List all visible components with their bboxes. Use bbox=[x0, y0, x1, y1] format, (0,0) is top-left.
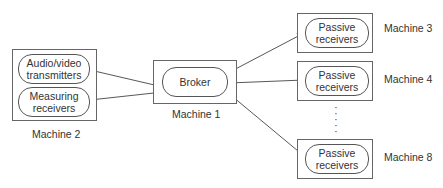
passive-receivers-node-4: Passivereceivers bbox=[305, 66, 369, 96]
node-label: transmitters bbox=[27, 69, 82, 81]
node-label: Measuring bbox=[29, 90, 78, 102]
machine-1-label: Machine 1 bbox=[172, 108, 220, 120]
node-label: Broker bbox=[180, 76, 211, 88]
broker-node: Broker bbox=[162, 67, 228, 97]
machine-2-label: Machine 2 bbox=[32, 128, 80, 140]
machine-1-box: Broker bbox=[153, 60, 237, 104]
machine-4-label: Machine 4 bbox=[384, 73, 432, 85]
ellipsis-dots: ····· bbox=[333, 105, 339, 135]
audio-video-transmitters-node: Audio/videotransmitters bbox=[18, 54, 90, 84]
node-label: Passive bbox=[316, 147, 359, 159]
passive-receivers-node-8: Passivereceivers bbox=[305, 144, 369, 174]
node-label: Passive bbox=[316, 69, 359, 81]
node-label: receivers bbox=[29, 102, 78, 114]
machine-4-box: Passivereceivers bbox=[297, 61, 373, 101]
machine-3-label: Machine 3 bbox=[384, 22, 432, 34]
machine-2-box: Audio/videotransmitters Measuringreceive… bbox=[12, 49, 97, 121]
machine-8-label: Machine 8 bbox=[384, 151, 432, 163]
node-label: Passive bbox=[316, 21, 359, 33]
machine-8-box: Passivereceivers bbox=[297, 139, 373, 179]
machine-3-box: Passivereceivers bbox=[297, 13, 373, 53]
node-label: Audio/video bbox=[27, 57, 82, 69]
node-label: receivers bbox=[316, 33, 359, 45]
passive-receivers-node-3: Passivereceivers bbox=[305, 18, 369, 48]
node-label: receivers bbox=[316, 81, 359, 93]
measuring-receivers-node: Measuringreceivers bbox=[18, 87, 90, 117]
node-label: receivers bbox=[316, 159, 359, 171]
